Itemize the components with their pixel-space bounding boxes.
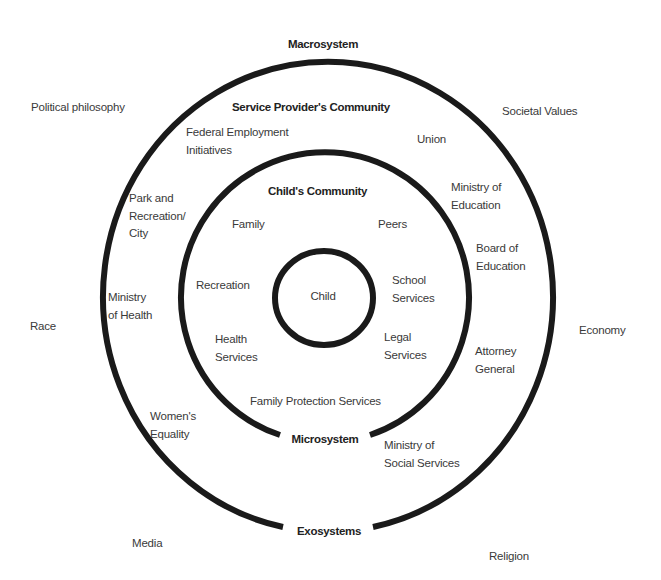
- union-label: Union: [417, 131, 446, 149]
- microsystem-label: Microsystem: [291, 431, 358, 449]
- attorney-general-label: Attorney General: [475, 343, 516, 378]
- legal-services-line2: Services: [384, 347, 427, 365]
- exosystems-label: Exosystems: [297, 523, 361, 541]
- health-services-line1: Health: [215, 331, 258, 349]
- ministry-of-education-label: Ministry of Education: [451, 179, 501, 214]
- ministry-health-line1: Ministry: [108, 289, 152, 307]
- health-services-label: Health Services: [215, 331, 258, 366]
- board-of-education-label: Board of Education: [476, 240, 525, 275]
- park-line2: Recreation/: [129, 208, 186, 226]
- race-label: Race: [30, 318, 56, 336]
- ministry-social-line1: Ministry of: [384, 437, 460, 455]
- federal-employment-line1: Federal Employment: [186, 124, 289, 142]
- family-protection-services-label: Family Protection Services: [250, 393, 381, 411]
- board-education-line2: Education: [476, 258, 525, 276]
- legal-services-label: Legal Services: [384, 329, 427, 364]
- family-label: Family: [232, 216, 265, 234]
- park-and-recreation-city-label: Park and Recreation/ City: [129, 190, 186, 243]
- service-providers-community-title: Service Provider's Community: [232, 99, 390, 117]
- legal-services-line1: Legal: [384, 329, 427, 347]
- park-line1: Park and: [129, 190, 186, 208]
- media-label: Media: [132, 535, 162, 553]
- school-services-label: School Services: [392, 272, 435, 307]
- child-label: Child: [310, 288, 335, 306]
- school-services-line1: School: [392, 272, 435, 290]
- ministry-of-health-label: Ministry of Health: [108, 289, 152, 324]
- ministry-of-social-services-label: Ministry of Social Services: [384, 437, 460, 472]
- economy-label: Economy: [579, 322, 626, 340]
- ministry-education-line2: Education: [451, 197, 501, 215]
- religion-label: Religion: [489, 548, 529, 566]
- ministry-education-line1: Ministry of: [451, 179, 501, 197]
- childs-community-title: Child's Community: [268, 183, 367, 201]
- board-education-line1: Board of: [476, 240, 525, 258]
- attorney-general-line1: Attorney: [475, 343, 516, 361]
- womens-equality-line1: Women's: [150, 408, 196, 426]
- federal-employment-initiatives-label: Federal Employment Initiatives: [186, 124, 289, 159]
- macrosystem-label: Macrosystem: [288, 36, 358, 54]
- school-services-line2: Services: [392, 290, 435, 308]
- recreation-label: Recreation: [196, 277, 250, 295]
- ministry-social-line2: Social Services: [384, 455, 460, 473]
- park-line3: City: [129, 225, 186, 243]
- societal-values-label: Societal Values: [502, 103, 577, 121]
- health-services-line2: Services: [215, 349, 258, 367]
- federal-employment-line2: Initiatives: [186, 142, 289, 160]
- womens-equality-line2: Equality: [150, 426, 196, 444]
- peers-label: Peers: [378, 216, 407, 234]
- attorney-general-line2: General: [475, 361, 516, 379]
- ecological-systems-diagram: Macrosystem Exosystems Microsystem Polit…: [0, 0, 661, 580]
- political-philosophy-label: Political philosophy: [31, 99, 125, 117]
- ministry-health-line2: of Health: [108, 307, 152, 325]
- womens-equality-label: Women's Equality: [150, 408, 196, 443]
